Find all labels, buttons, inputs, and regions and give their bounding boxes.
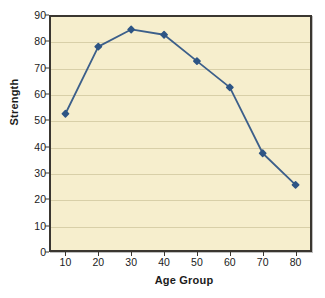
x-axis-title: Age Group xyxy=(48,274,320,286)
chart-figure: Strength 0102030405060708090 10203040506… xyxy=(0,0,325,298)
data-point-marker xyxy=(128,26,134,32)
line-series-layer xyxy=(0,0,325,298)
strength-line xyxy=(65,29,295,184)
data-point-marker xyxy=(95,44,101,50)
data-point-marker xyxy=(62,111,68,117)
strength-markers xyxy=(62,26,298,188)
